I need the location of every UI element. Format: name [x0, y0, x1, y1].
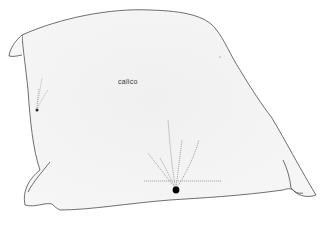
fabric-label: calico: [118, 78, 138, 85]
left-top-flap: [9, 35, 22, 56]
left-pin: [36, 109, 39, 112]
speck-mark: [219, 56, 220, 57]
calico-fabric-diagram: [0, 0, 327, 225]
center-pin: [173, 187, 180, 194]
fabric-outline: [22, 10, 316, 210]
